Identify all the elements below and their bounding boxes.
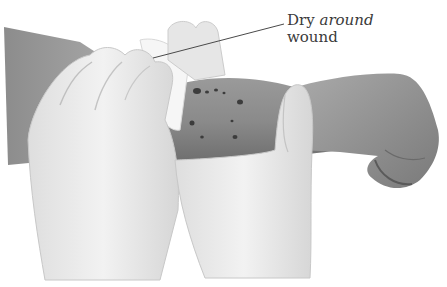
callout-label: Dry around wound [287, 12, 374, 46]
patient-hand [300, 74, 439, 188]
instruction-figure: Dry around wound [0, 0, 447, 287]
callout-line-2: wound [287, 29, 374, 46]
callout-line-1: Dry around [287, 12, 374, 29]
callout-emphasis: around [319, 11, 373, 29]
forearm-wound-photo [0, 0, 447, 287]
